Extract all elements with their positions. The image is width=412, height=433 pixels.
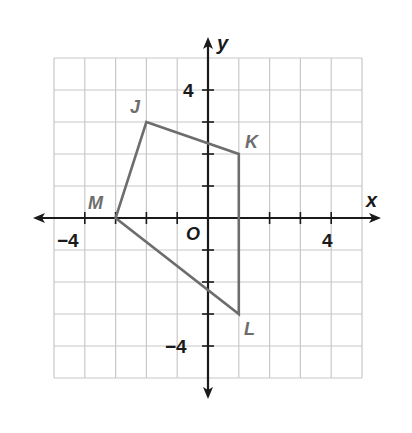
y-tick-label-neg4: −4: [165, 336, 187, 357]
x-axis-label: x: [365, 189, 378, 211]
vertex-label-m: M: [88, 193, 104, 213]
vertex-label-j: J: [130, 97, 141, 117]
coordinate-plane: x y O −4 4 4 −4 J K L M: [0, 0, 412, 433]
origin-label: O: [186, 224, 200, 244]
y-axis-label: y: [216, 32, 229, 54]
vertex-label-k: K: [245, 132, 260, 152]
x-tick-label-neg4: −4: [57, 230, 79, 251]
y-tick-label-4: 4: [183, 80, 194, 101]
vertex-label-l: L: [244, 319, 255, 339]
x-tick-label-4: 4: [322, 230, 333, 251]
